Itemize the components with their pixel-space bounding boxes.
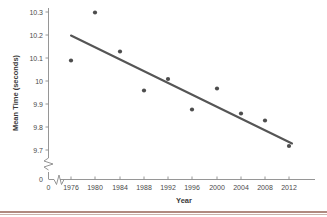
data-point [93, 10, 97, 14]
x-tick-label-2008: 2008 [257, 184, 273, 191]
y-tick-label-10-2: 10.2 [29, 32, 43, 39]
page-divider-rule-secondary [0, 214, 327, 215]
data-point [287, 144, 291, 148]
x-tick-label-2000: 2000 [209, 184, 225, 191]
y-tick-label-10-1: 10.1 [29, 55, 43, 62]
x-tick-label-1980: 1980 [87, 184, 103, 191]
data-point [215, 86, 219, 90]
y-tick-label-10: 10 [35, 78, 43, 85]
y-tick-label-9-8: 9.8 [33, 124, 43, 131]
x-tick-label-2004: 2004 [233, 184, 249, 191]
y-tick-label-9-7: 9.7 [33, 147, 43, 154]
y-tick-label-9-9: 9.9 [33, 101, 43, 108]
data-point [166, 77, 170, 81]
x-axis-title: Year [176, 196, 192, 205]
data-point [263, 118, 267, 122]
x-tick-label-1976: 1976 [63, 184, 79, 191]
chart-canvas: 10.3 10.2 10.1 10 9.9 9.8 9.7 0 0 1976 1… [0, 0, 327, 217]
data-point [69, 58, 73, 62]
y-tick-label-0: 0 [39, 176, 43, 183]
y-axis-title: Mean Time (seconds) [11, 54, 20, 131]
y-axis-break-icon [44, 158, 53, 170]
scatter-plot-figure: 10.3 10.2 10.1 10 9.9 9.8 9.7 0 0 1976 1… [0, 0, 327, 217]
data-point [190, 107, 194, 111]
x-tick-label-0: 0 [47, 184, 51, 191]
x-tick-label-1988: 1988 [136, 184, 152, 191]
x-tick-label-1984: 1984 [112, 184, 128, 191]
page-divider-rule [0, 211, 327, 213]
data-point [239, 111, 243, 115]
data-point [118, 49, 122, 53]
data-point [142, 88, 146, 92]
x-tick-label-2012: 2012 [281, 184, 297, 191]
x-tick-label-1992: 1992 [160, 184, 176, 191]
trend-line [71, 36, 292, 144]
x-tick-label-1996: 1996 [184, 184, 200, 191]
y-tick-label-10-3: 10.3 [29, 9, 43, 16]
